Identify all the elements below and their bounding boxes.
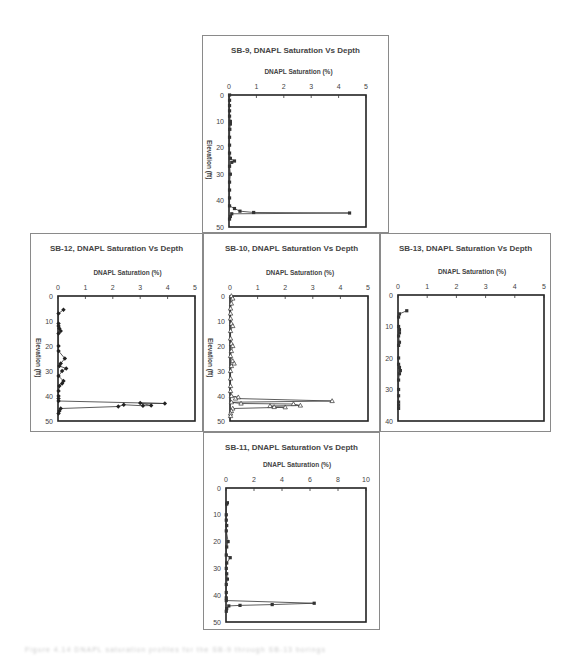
data-point-marker bbox=[397, 315, 400, 318]
data-point-marker bbox=[229, 157, 232, 160]
data-point-marker bbox=[228, 311, 232, 315]
svg-text:1: 1 bbox=[425, 283, 429, 290]
svg-text:10: 10 bbox=[45, 318, 53, 325]
data-point-marker bbox=[225, 567, 228, 570]
svg-text:2: 2 bbox=[252, 476, 256, 483]
data-point-marker bbox=[397, 325, 400, 328]
data-point-marker bbox=[229, 173, 232, 176]
data-point-marker bbox=[228, 336, 232, 340]
svg-text:40: 40 bbox=[216, 197, 224, 204]
svg-text:10: 10 bbox=[385, 323, 393, 330]
svg-text:5: 5 bbox=[193, 284, 197, 291]
plot-area: 024681001020304050 bbox=[203, 432, 380, 630]
data-point-marker bbox=[225, 529, 228, 532]
data-point-marker bbox=[397, 334, 400, 337]
data-point-marker bbox=[228, 128, 231, 131]
data-point-marker bbox=[225, 599, 228, 602]
data-point-marker bbox=[228, 181, 231, 184]
svg-text:10: 10 bbox=[213, 511, 221, 518]
svg-text:0: 0 bbox=[49, 293, 53, 300]
data-point-marker bbox=[397, 407, 400, 410]
data-point-marker bbox=[238, 210, 241, 213]
data-point-marker bbox=[116, 404, 120, 408]
data-point-marker bbox=[138, 401, 142, 405]
svg-text:0: 0 bbox=[227, 83, 231, 90]
data-point-marker bbox=[228, 316, 232, 320]
data-point-marker bbox=[229, 556, 232, 559]
data-point-marker bbox=[64, 366, 68, 370]
svg-text:10: 10 bbox=[217, 318, 225, 325]
data-point-marker bbox=[225, 524, 228, 527]
svg-text:20: 20 bbox=[216, 144, 224, 151]
svg-text:6: 6 bbox=[308, 476, 312, 483]
svg-text:4: 4 bbox=[513, 283, 517, 290]
svg-text:4: 4 bbox=[337, 83, 341, 90]
svg-text:1: 1 bbox=[83, 284, 87, 291]
plot-area: 01234501020304050 bbox=[202, 35, 389, 233]
svg-text:0: 0 bbox=[228, 284, 232, 291]
data-point-marker bbox=[228, 151, 231, 154]
data-point-marker bbox=[225, 513, 228, 516]
data-series-line bbox=[59, 310, 165, 414]
data-point-marker bbox=[398, 341, 401, 344]
data-point-marker bbox=[225, 572, 228, 575]
svg-text:4: 4 bbox=[338, 284, 342, 291]
svg-text:2: 2 bbox=[282, 83, 286, 90]
data-point-marker bbox=[56, 344, 60, 348]
svg-text:1: 1 bbox=[254, 83, 258, 90]
svg-text:0: 0 bbox=[56, 284, 60, 291]
svg-text:20: 20 bbox=[45, 343, 53, 350]
svg-text:40: 40 bbox=[385, 418, 393, 425]
data-point-marker bbox=[397, 356, 400, 359]
svg-text:40: 40 bbox=[213, 592, 221, 599]
svg-text:3: 3 bbox=[311, 284, 315, 291]
chart-panel-sb13: SB-13, DNAPL Saturation Vs DepthDNAPL Sa… bbox=[380, 233, 551, 432]
data-series-line bbox=[230, 95, 350, 219]
svg-text:4: 4 bbox=[166, 284, 170, 291]
data-point-marker bbox=[228, 354, 232, 358]
data-point-marker bbox=[397, 394, 400, 397]
data-point-marker bbox=[229, 122, 232, 125]
svg-text:0: 0 bbox=[221, 293, 225, 300]
data-point-marker bbox=[228, 109, 231, 112]
data-point-marker bbox=[271, 603, 274, 606]
data-point-marker bbox=[397, 378, 400, 381]
plot-area: 01234501020304050 bbox=[203, 233, 380, 432]
data-point-marker bbox=[238, 604, 241, 607]
data-point-marker bbox=[228, 204, 231, 207]
data-point-marker bbox=[56, 399, 60, 403]
data-point-marker bbox=[227, 540, 230, 543]
svg-text:4: 4 bbox=[280, 476, 284, 483]
data-point-marker bbox=[228, 144, 231, 147]
svg-text:0: 0 bbox=[217, 485, 221, 492]
chart-panel-sb12: SB-12, DNAPL Saturation Vs DepthDNAPL Sa… bbox=[30, 233, 203, 432]
plot-area: 012345010203040 bbox=[380, 233, 551, 432]
data-point-marker bbox=[230, 161, 233, 164]
chart-panel-sb10: SB-10, DNAPL Saturation Vs DepthDNAPL Sa… bbox=[203, 233, 380, 432]
data-point-marker bbox=[56, 389, 60, 393]
data-point-marker bbox=[228, 104, 231, 107]
chart-panel-sb11: SB-11, DNAPL Saturation Vs DepthDNAPL Sa… bbox=[203, 432, 380, 630]
data-point-marker bbox=[225, 545, 228, 548]
svg-text:2: 2 bbox=[454, 283, 458, 290]
svg-text:30: 30 bbox=[45, 368, 53, 375]
svg-text:30: 30 bbox=[385, 386, 393, 393]
svg-text:10: 10 bbox=[216, 118, 224, 125]
data-series-line bbox=[226, 503, 314, 612]
svg-text:50: 50 bbox=[213, 619, 221, 626]
svg-text:50: 50 bbox=[45, 418, 53, 425]
svg-text:50: 50 bbox=[216, 224, 224, 231]
figure-caption: Figure 4.14 DNAPL saturation profiles fo… bbox=[25, 646, 326, 653]
svg-text:5: 5 bbox=[364, 83, 368, 90]
svg-text:30: 30 bbox=[216, 171, 224, 178]
data-point-marker bbox=[397, 404, 400, 407]
data-point-marker bbox=[228, 384, 232, 388]
data-point-marker bbox=[397, 363, 400, 366]
plot-area: 01234501020304050 bbox=[30, 233, 203, 432]
svg-text:30: 30 bbox=[213, 565, 221, 572]
data-point-marker bbox=[149, 403, 153, 407]
data-point-marker bbox=[225, 610, 228, 613]
data-point-marker bbox=[225, 519, 228, 522]
svg-text:3: 3 bbox=[138, 284, 142, 291]
data-point-marker bbox=[228, 136, 231, 139]
